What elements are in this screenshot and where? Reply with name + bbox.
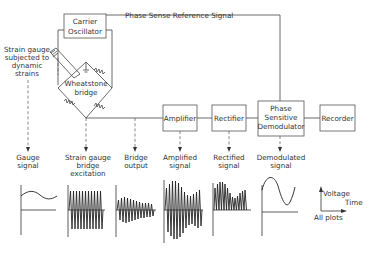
amplified-label-2: signal — [169, 161, 190, 170]
demodulator-label-3: Demodulator — [257, 122, 304, 131]
plot-bridge-output — [116, 185, 156, 237]
rectifier-label: Rectifier — [214, 114, 244, 123]
gauge-signal-label-2: signal — [17, 161, 38, 170]
legend-all-plots-label: All plots — [314, 213, 343, 222]
recorder-label: Recorder — [321, 114, 353, 123]
plot-demodulated — [262, 177, 298, 236]
amplifier-label: Amplifier — [164, 114, 196, 123]
bridge-output-label-2: output — [124, 161, 148, 170]
plot-amplified — [164, 180, 203, 243]
plot-gauge-signal — [21, 185, 57, 235]
carrier-oscillator-label-2: Oscillator — [68, 27, 102, 36]
phase-reference-label: Phase Sense Reference Signal — [125, 11, 233, 20]
wheatstone-label-1: Wheatstone — [64, 79, 108, 88]
rectified-label-2: signal — [218, 161, 239, 170]
excitation-label-3: excitation — [70, 169, 105, 178]
strain-gauge-label-4: strains — [15, 69, 39, 78]
strain-gauge-signal-chain-diagram: Phase Sense Reference Signal Carrier Osc… — [0, 0, 371, 256]
wheatstone-label-2: bridge — [74, 88, 98, 97]
plot-rectified — [213, 182, 251, 236]
plot-excitation — [68, 185, 105, 237]
carrier-oscillator-label-1: Carrier — [73, 17, 98, 26]
resistor-icon — [94, 103, 105, 109]
strain-gauge-icon — [50, 48, 80, 78]
osc-feed-left — [58, 30, 64, 85]
legend-voltage-label: Voltage — [323, 189, 351, 198]
legend-axes: Voltage Time All plots — [314, 186, 363, 222]
demodulator-label-1: Phase — [270, 104, 292, 113]
phase-reference-line — [106, 15, 280, 101]
demodulated-label-2: signal — [270, 161, 291, 170]
resistor-icon — [94, 68, 105, 74]
demodulator-label-2: Sensitive — [265, 113, 298, 122]
legend-time-label: Time — [344, 198, 363, 207]
